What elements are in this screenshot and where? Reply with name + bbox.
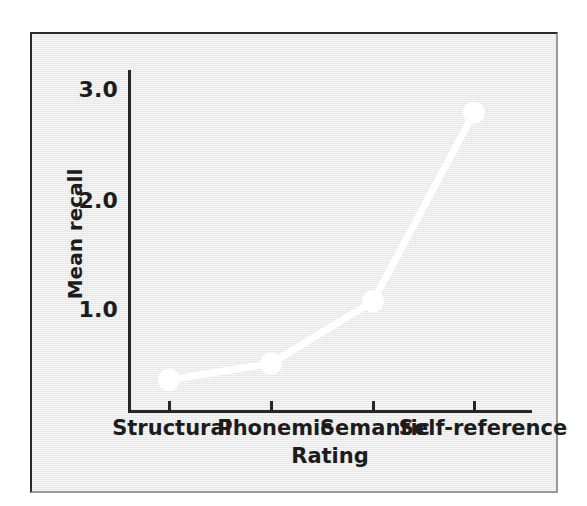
data-point-marker xyxy=(158,369,180,391)
plot-area: 3.0 2.0 1.0 Mean recall Rating Structura… xyxy=(32,34,556,491)
data-point-marker xyxy=(362,290,384,312)
data-series-layer xyxy=(32,34,560,495)
data-point-marker xyxy=(260,353,282,375)
figure-panel: 3.0 2.0 1.0 Mean recall Rating Structura… xyxy=(30,32,558,493)
series-line-mean-recall xyxy=(169,113,474,380)
series-markers-group xyxy=(158,102,485,391)
data-point-marker xyxy=(463,102,485,124)
figure-screenshot: 3.0 2.0 1.0 Mean recall Rating Structura… xyxy=(0,0,587,506)
